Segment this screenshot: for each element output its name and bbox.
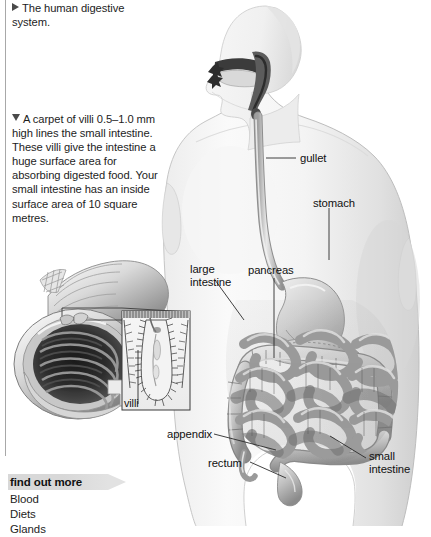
label-rectum: rectum — [208, 457, 242, 470]
villus-inset-diagram — [122, 311, 190, 410]
down-triangle-icon — [12, 114, 20, 121]
label-stomach: stomach — [313, 197, 355, 210]
label-large-intestine: large intestine — [190, 263, 231, 289]
list-item[interactable]: Glands — [10, 522, 158, 537]
label-appendix: appendix — [167, 428, 212, 441]
rectum-organ — [277, 462, 302, 506]
list-item[interactable]: Blood — [10, 492, 158, 507]
arrow-right-icon — [108, 474, 126, 490]
label-gullet: gullet — [300, 152, 326, 165]
caption-villi: A carpet of villi 0.5–1.0 mm high lines … — [12, 112, 162, 225]
label-villi: villi — [124, 397, 139, 410]
find-out-more-block: find out more Blood Diets Glands — [8, 474, 158, 537]
caption-top-text: The human digestive system. — [12, 2, 124, 28]
caption-villi-text: A carpet of villi 0.5–1.0 mm high lines … — [12, 113, 158, 224]
right-triangle-icon — [12, 3, 19, 11]
label-small-intestine: small intestine — [369, 450, 410, 476]
find-out-more-list: Blood Diets Glands — [10, 492, 158, 537]
find-out-more-heading: find out more — [10, 475, 82, 489]
find-out-more-banner: find out more — [8, 474, 126, 490]
list-item[interactable]: Diets — [10, 507, 158, 522]
left-margin-rule — [5, 0, 6, 456]
label-pancreas: pancreas — [248, 264, 294, 277]
caption-top: The human digestive system. — [12, 1, 162, 29]
